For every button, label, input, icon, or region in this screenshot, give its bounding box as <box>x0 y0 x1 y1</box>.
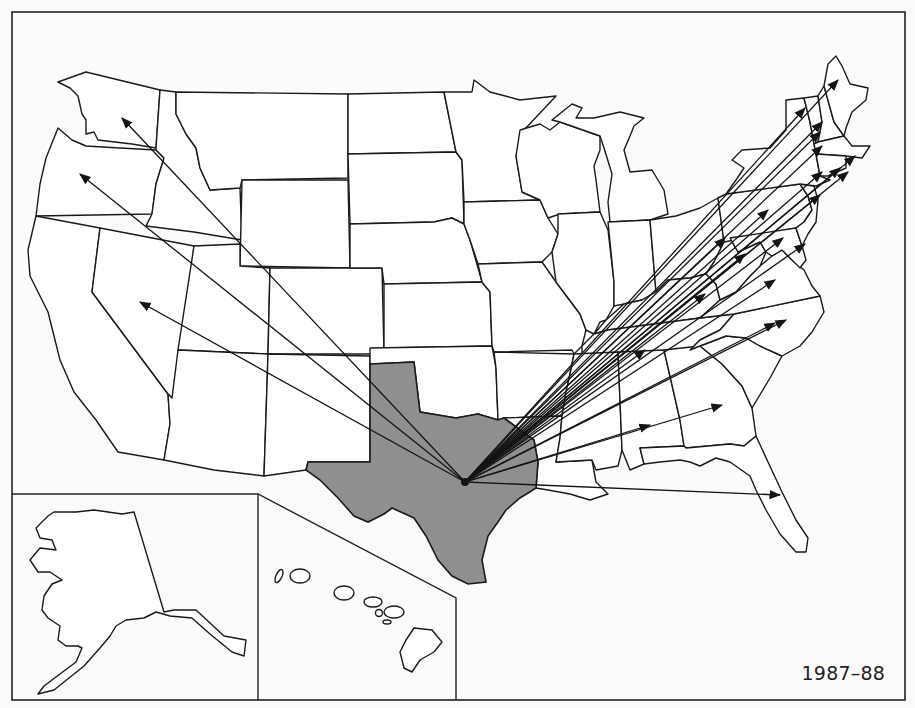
state-washington <box>58 72 160 148</box>
state-arizona <box>164 350 268 476</box>
state-alaska <box>30 510 246 694</box>
state-colorado <box>268 268 384 354</box>
state-indiana <box>608 220 656 306</box>
state-kansas <box>384 282 492 348</box>
state-hawaii <box>273 568 442 672</box>
us-states <box>28 56 870 584</box>
state-wyoming <box>240 180 350 268</box>
state-south-dakota <box>348 152 464 224</box>
migration-map <box>0 0 915 708</box>
state-florida <box>640 436 808 552</box>
state-new-mexico <box>264 354 370 476</box>
period-label: 1987–88 <box>802 662 885 684</box>
origin-point <box>461 478 469 486</box>
state-north-dakota <box>348 92 456 154</box>
